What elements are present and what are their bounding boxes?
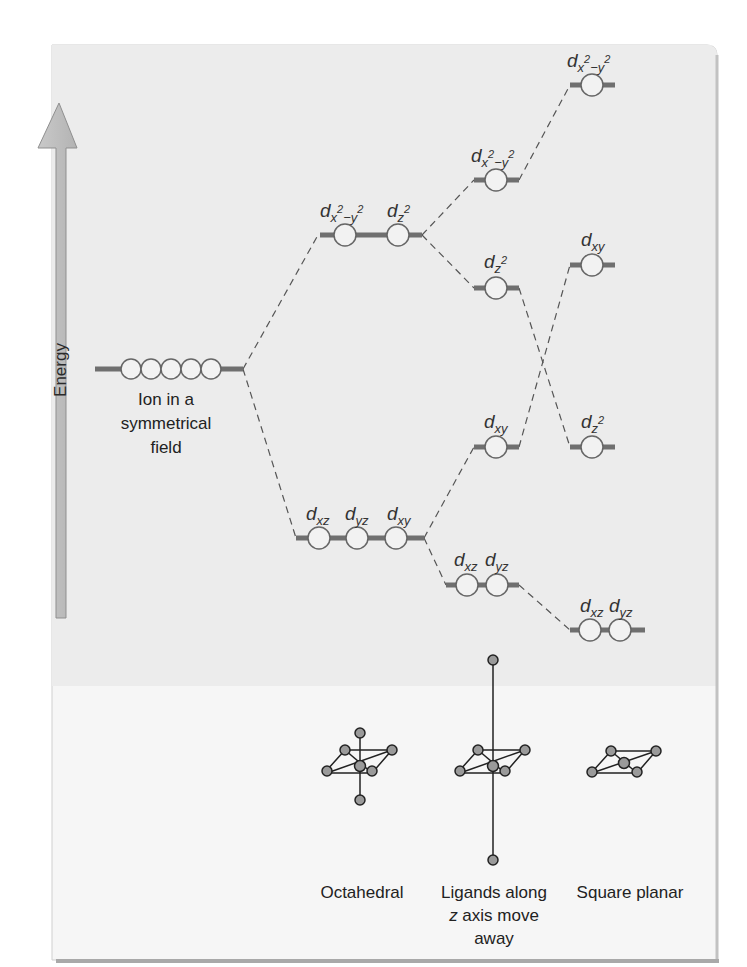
orbital-circle (161, 359, 181, 379)
orbital-circle (181, 359, 201, 379)
caption-elongated-line3: away (474, 929, 514, 948)
caption-elongated-line2: z axis move (448, 906, 539, 925)
orbital-circle (121, 359, 141, 379)
caption-ion-line2: symmetrical (121, 414, 212, 433)
energy-axis-label: Energy (51, 343, 70, 397)
caption-elongated-line1: Ligands along (441, 883, 547, 902)
caption-octahedral: Octahedral (320, 883, 403, 902)
orbital-circle (141, 359, 161, 379)
caption-square-planar: Square planar (577, 883, 684, 902)
caption-ion-line1: Ion in a (138, 390, 194, 409)
caption-ion-line3: field (150, 438, 181, 457)
orbital-circle (201, 359, 221, 379)
figure-panel (52, 45, 719, 962)
crystal-field-splitting-figure: Energy Ion in a symmetric (0, 0, 747, 967)
